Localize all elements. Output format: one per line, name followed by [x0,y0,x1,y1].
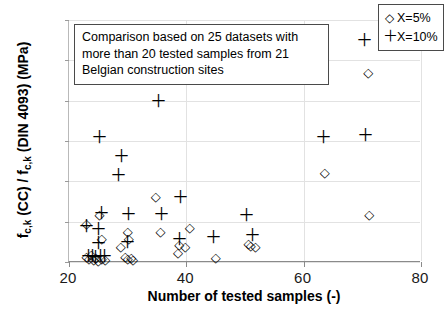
y-axis-title-part1: f [15,234,31,239]
plus-marker-icon: ＋ [110,166,127,183]
legend-entry-x5: ◇ X=5% [383,8,439,27]
plus-marker-icon: ＋ [119,233,136,250]
plus-marker-icon: ＋ [113,147,130,164]
plus-marker-icon: ＋ [357,127,374,144]
plus-marker-icon: ＋ [205,228,222,245]
plus-marker-icon: ＋ [91,128,108,145]
y-tick-mark [65,141,69,142]
plus-marker-icon: ＋ [171,231,188,248]
plus-marker-icon: ＋ [153,206,170,223]
x-tick-mark [304,262,305,267]
diamond-marker-icon: ◇ [151,189,161,202]
x-tick-label: 20 [45,269,91,286]
x-tick-label: 40 [162,269,208,286]
x-tick-mark [421,262,422,267]
legend-plus-icon: ＋ [383,29,396,44]
annotation-textbox: Comparison based on 25 datasets with mor… [74,24,329,85]
y-axis-title-part3: (DIN 4093) (MPa) [15,42,31,156]
legend-label-x10: X=10% [397,30,438,44]
diamond-marker-icon: ◇ [320,166,330,179]
x-tick-mark [69,262,70,267]
legend-entry-x10: ＋ X=10% [383,27,439,46]
diamond-marker-icon: ◇ [156,225,166,238]
plus-marker-icon: ＋ [96,248,113,265]
y-axis-title: fc,k (CC) / fc,k (DIN 4093) (MPa) [15,11,31,269]
y-tick-mark [65,60,69,61]
x-tick-mark [186,262,187,267]
y-tick-mark [65,181,69,182]
diamond-marker-icon: ◇ [211,251,221,264]
plus-marker-icon: ＋ [150,92,167,109]
y-tick-mark [65,20,69,21]
x-tick-label: 60 [280,269,326,286]
gridline-horizontal [69,20,420,21]
y-axis-title-sub1: c,k [22,220,33,234]
plus-marker-icon: ＋ [172,189,189,206]
plus-marker-icon: ＋ [238,207,255,224]
plus-marker-icon: ＋ [244,227,261,244]
legend-label-x5: X=5% [397,11,431,25]
scatter-chart-figure: fc,k (CC) / fc,k (DIN 4093) (MPa) Number… [0,0,448,313]
annotation-line-3: Belgian construction sites [82,62,322,79]
plus-marker-icon: ＋ [120,206,137,223]
chart-legend: ◇ X=5% ＋ X=10% [378,4,444,51]
y-tick-mark [65,222,69,223]
diamond-marker-icon: ◇ [363,66,373,79]
annotation-line-2: more than 20 tested samples from 21 [82,46,322,63]
plus-marker-icon: ＋ [315,128,332,145]
gridline-horizontal [69,101,420,102]
y-tick-mark [65,101,69,102]
x-axis-title: Number of tested samples (-) [68,288,420,304]
plus-marker-icon: ＋ [356,32,373,49]
diamond-marker-icon: ◇ [128,252,138,265]
legend-diamond-icon: ◇ [383,12,396,24]
y-axis-title-sub2: c,k [22,156,33,170]
gridline-vertical [421,20,422,261]
annotation-line-1: Comparison based on 25 datasets with [82,29,322,46]
y-axis-title-part2: (CC) / f [15,170,31,220]
x-tick-label: 80 [397,269,443,286]
diamond-marker-icon: ◇ [364,208,374,221]
